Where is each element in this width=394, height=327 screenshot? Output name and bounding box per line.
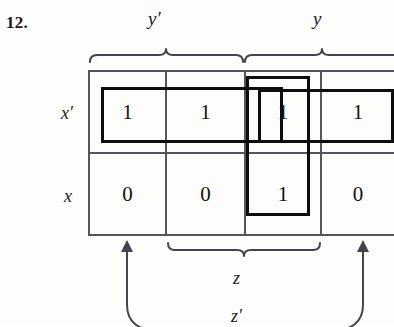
row-label-x-prime: x′: [61, 103, 73, 124]
column-group-label-y-prime: y′: [148, 8, 161, 30]
bottom-group-label-z-prime: z′: [231, 306, 242, 327]
problem-number: 12.: [6, 13, 28, 33]
arrow-z-prime-left: [121, 240, 133, 292]
group-loop-z-column: [246, 76, 310, 216]
karnaugh-map-grid: 1 1 1 1 0 0 1 0: [88, 70, 394, 236]
arrow-z-prime-right: [357, 240, 369, 292]
kmap-cell-r1c0: 0: [90, 154, 165, 234]
column-group-label-y: y: [313, 8, 321, 30]
row-label-x: x: [64, 186, 72, 207]
brace-z: [168, 243, 320, 256]
bottom-group-label-z: z: [233, 268, 240, 289]
kmap-cell-r1c3: 0: [322, 154, 394, 234]
connector-z-prime: [127, 288, 363, 327]
brace-y: [245, 49, 394, 62]
grid-line-bottom: [88, 234, 394, 236]
kmap-cell-r1c1: 0: [167, 154, 244, 234]
brace-y-prime: [90, 49, 243, 62]
